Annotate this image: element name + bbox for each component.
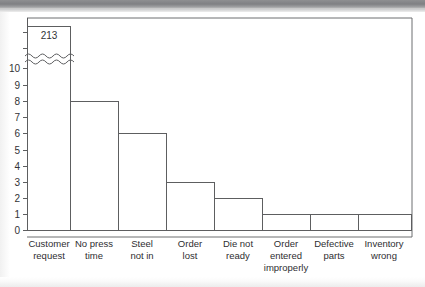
y-tick-label-3: 3 (14, 177, 20, 188)
bar-value-label-customer-request: 213 (41, 30, 58, 41)
cat-label-defective-parts-line2: parts (323, 250, 344, 261)
y-tick-label-0: 0 (14, 225, 20, 236)
y-tick-label-8: 8 (14, 96, 20, 107)
bar-order-lost (167, 183, 215, 231)
cat-label-steel-not-in-line1: Steel (131, 238, 153, 249)
cat-label-inventory-wrong-line2: wrong (370, 250, 397, 261)
y-tick-label-6: 6 (14, 128, 20, 139)
bars-group (28, 27, 412, 231)
bar-inventory-wrong (359, 215, 412, 231)
cat-label-customer-request-line2: request (33, 250, 65, 261)
cat-label-order-lost-line2: lost (183, 250, 198, 261)
y-tick-label-7: 7 (14, 112, 20, 123)
y-tick-label-2: 2 (14, 193, 20, 204)
y-tick-label-9: 9 (14, 80, 20, 91)
cat-label-order-entered-improperly-line3: improperly (264, 262, 309, 273)
bar-order-entered-improperly (263, 215, 311, 231)
cat-label-die-not-ready-line2: ready (226, 250, 250, 261)
cat-label-order-entered-improperly-line2: entered (270, 250, 302, 261)
cat-label-inventory-wrong-line1: Inventory (364, 238, 403, 249)
y-tick-label-5: 5 (14, 145, 20, 156)
x-category-labels-group: Customer request No press time Steel not… (28, 238, 403, 273)
cat-label-no-press-time-line1: No press (75, 238, 113, 249)
cat-label-die-not-ready-line1: Die not (223, 238, 253, 249)
y-tick-labels-group: 0 1 2 3 4 5 6 7 8 9 10 (9, 63, 21, 236)
cat-label-order-entered-improperly-line1: Order (274, 238, 298, 249)
y-tick-label-10: 10 (9, 63, 21, 74)
cat-label-customer-request-line1: Customer (28, 238, 69, 249)
cat-label-steel-not-in-line2: not in (130, 250, 153, 261)
bar-steel-not-in (119, 134, 167, 231)
cat-label-order-lost-line1: Order (178, 238, 202, 249)
y-tick-label-4: 4 (14, 161, 20, 172)
cat-label-defective-parts-line1: Defective (314, 238, 354, 249)
pareto-chart: 0 1 2 3 4 5 6 7 8 9 10 213 Customer requ… (0, 0, 425, 287)
bar-die-not-ready (215, 199, 263, 231)
bar-no-press-time (71, 102, 119, 231)
chart-svg: 0 1 2 3 4 5 6 7 8 9 10 213 Customer requ… (0, 0, 425, 287)
y-tick-label-1: 1 (14, 209, 20, 220)
cat-label-no-press-time-line2: time (85, 250, 103, 261)
bar-defective-parts (311, 215, 359, 231)
